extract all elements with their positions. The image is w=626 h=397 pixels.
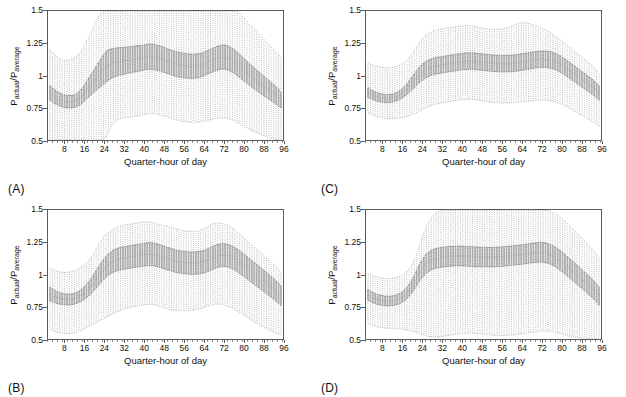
x-tick-mark-minor-d	[375, 340, 376, 342]
x-tick-label-a: 8	[62, 145, 67, 154]
x-tick-mark-b	[184, 340, 185, 343]
x-tick-label-a: 80	[239, 145, 248, 154]
x-tick-mark-minor-a	[227, 141, 228, 143]
x-tick-mark-minor-b	[247, 340, 248, 342]
x-tick-mark-minor-d	[380, 340, 381, 342]
x-tick-mark-minor-d	[370, 340, 371, 342]
x-tick-mark-minor-b	[162, 340, 163, 342]
x-tick-mark-minor-d	[390, 340, 391, 342]
x-tick-mark-minor-a	[122, 141, 123, 143]
x-tick-mark-minor-d	[455, 340, 456, 342]
x-tick-label-b: 80	[239, 344, 248, 353]
x-tick-mark-minor-d	[410, 340, 411, 342]
x-tick-mark-minor-d	[590, 340, 591, 342]
x-tick-mark-d	[602, 340, 603, 343]
plot-area-d: Pactual/Paverage Quarter-hour of day 0.5…	[365, 209, 602, 340]
x-tick-mark-minor-d	[450, 340, 451, 342]
x-tick-mark-minor-b	[72, 340, 73, 342]
x-tick-mark-minor-c	[490, 141, 491, 143]
x-tick-mark-minor-d	[430, 340, 431, 342]
plot-area-b: Pactual/Paverage Quarter-hour of day 0.5…	[47, 209, 284, 340]
x-tick-mark-a	[144, 141, 145, 144]
plot-frame-b	[47, 209, 284, 340]
x-tick-mark-a	[244, 141, 245, 144]
x-tick-mark-d	[442, 340, 443, 343]
x-tick-mark-minor-d	[475, 340, 476, 342]
x-tick-mark-minor-a	[127, 141, 128, 143]
x-tick-mark-minor-c	[425, 141, 426, 143]
x-tick-mark-d	[562, 340, 563, 343]
x-tick-mark-minor-c	[595, 141, 596, 143]
x-tick-mark-minor-a	[147, 141, 148, 143]
panel-label-d: (D)	[321, 381, 338, 395]
x-tick-label-a: 24	[100, 145, 109, 154]
plot-frame-c	[365, 10, 602, 141]
x-tick-mark-minor-c	[540, 141, 541, 143]
x-tick-label-d: 48	[478, 344, 487, 353]
x-tick-mark-minor-b	[272, 340, 273, 342]
x-tick-mark-b	[244, 340, 245, 343]
x-tick-mark-minor-a	[112, 141, 113, 143]
x-tick-mark-minor-b	[92, 340, 93, 342]
x-tick-mark-minor-b	[222, 340, 223, 342]
y-tick-label-a: 0.75	[26, 104, 43, 113]
x-tick-mark-minor-d	[405, 340, 406, 342]
x-tick-mark-minor-a	[117, 141, 118, 143]
x-tick-mark-d	[382, 340, 383, 343]
y-tick-mark-b	[43, 209, 47, 210]
x-tick-mark-minor-d	[535, 340, 536, 342]
x-tick-mark-minor-c	[550, 141, 551, 143]
x-tick-mark-minor-a	[272, 141, 273, 143]
x-tick-label-b: 40	[140, 344, 149, 353]
y-tick-label-a: 1.25	[26, 39, 43, 48]
x-tick-mark-minor-b	[122, 340, 123, 342]
x-tick-mark-minor-c	[590, 141, 591, 143]
y-tick-label-c: 1.5	[349, 6, 361, 15]
y-tick-mark-c	[361, 43, 365, 44]
y-axis-label-c: Pactual/Paverage	[326, 46, 337, 105]
x-tick-mark-minor-b	[97, 340, 98, 342]
x-tick-mark-a	[204, 141, 205, 144]
y-tick-mark-c	[361, 108, 365, 109]
panel-label-c: (C)	[321, 182, 338, 196]
x-tick-mark-b	[164, 340, 165, 343]
x-tick-mark-minor-b	[267, 340, 268, 342]
y-tick-label-c: 1.25	[344, 39, 361, 48]
x-tick-mark-b	[144, 340, 145, 343]
x-tick-mark-a	[264, 141, 265, 144]
x-tick-mark-minor-a	[57, 141, 58, 143]
x-tick-mark-minor-a	[267, 141, 268, 143]
x-tick-mark-c	[422, 141, 423, 144]
x-tick-mark-minor-b	[172, 340, 173, 342]
y-tick-label-d: 0.75	[344, 303, 361, 312]
panel-b: Pactual/Paverage Quarter-hour of day 0.5…	[0, 199, 313, 397]
x-tick-mark-minor-d	[565, 340, 566, 342]
x-tick-mark-minor-c	[440, 141, 441, 143]
x-tick-mark-minor-a	[232, 141, 233, 143]
x-tick-mark-minor-a	[102, 141, 103, 143]
x-tick-mark-minor-a	[262, 141, 263, 143]
x-tick-mark-minor-d	[490, 340, 491, 342]
scatter-canvas-a	[48, 11, 283, 140]
x-tick-mark-minor-c	[415, 141, 416, 143]
x-tick-mark-c	[542, 141, 543, 144]
x-axis-label-a: Quarter-hour of day	[124, 156, 207, 167]
x-tick-mark-minor-c	[575, 141, 576, 143]
y-tick-label-c: 0.5	[349, 137, 361, 146]
x-tick-mark-minor-b	[167, 340, 168, 342]
x-tick-label-a: 56	[179, 145, 188, 154]
x-tick-mark-c	[602, 141, 603, 144]
x-tick-mark-minor-c	[365, 141, 366, 143]
x-tick-mark-minor-d	[525, 340, 526, 342]
x-tick-mark-minor-c	[380, 141, 381, 143]
y-tick-label-b: 0.75	[26, 303, 43, 312]
x-tick-mark-d	[542, 340, 543, 343]
x-tick-mark-c	[582, 141, 583, 144]
x-tick-mark-minor-b	[152, 340, 153, 342]
x-tick-label-c: 88	[577, 145, 586, 154]
x-tick-mark-minor-c	[410, 141, 411, 143]
x-tick-mark-minor-a	[157, 141, 158, 143]
x-tick-mark-minor-a	[132, 141, 133, 143]
x-axis-label-b: Quarter-hour of day	[124, 355, 207, 366]
x-tick-mark-minor-c	[395, 141, 396, 143]
